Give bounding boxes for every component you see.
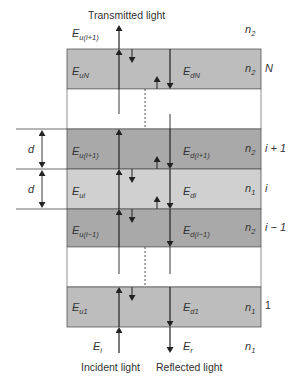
- layer-label-i-plus-1: i + 1: [265, 142, 286, 154]
- reflected-field-label: Er: [183, 340, 193, 355]
- gap-upper: [67, 89, 261, 129]
- index-label-top: n2: [245, 23, 256, 38]
- index-bottom: n1: [245, 340, 255, 355]
- incident-light-label: Incident light: [81, 361, 140, 373]
- gap-lower: [67, 247, 261, 287]
- transmitted-light-label: Transmitted light: [88, 9, 165, 21]
- layer-label-N: N: [265, 62, 273, 74]
- layer-label-i-minus-1: i − 1: [265, 221, 286, 233]
- incident-field-label: Ei: [93, 340, 102, 355]
- layer-1: [67, 287, 261, 327]
- field-label-top: Eu(i+1): [72, 27, 99, 42]
- layer-label-i: i: [265, 182, 268, 194]
- layer-i-plus-1: [67, 129, 261, 169]
- multilayer-diagram: d d Transmitted light Eu(i+1) n2 EuN EdN…: [0, 0, 295, 386]
- layer-i: [67, 169, 261, 209]
- thickness-label: d: [28, 183, 35, 195]
- thickness-label: d: [28, 143, 35, 155]
- layer-i-minus-1: [67, 209, 261, 247]
- layer-N: [67, 49, 261, 89]
- layer-label-1: 1: [265, 299, 271, 311]
- reflected-light-label: Reflected light: [156, 361, 223, 373]
